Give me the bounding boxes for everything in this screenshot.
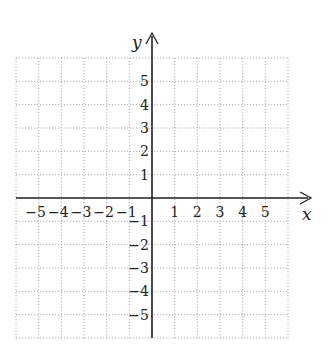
x-tick-label: 5 [261,204,270,220]
x-tick-label: 2 [193,204,202,220]
x-tick-label: −4 [48,204,69,220]
axes: x y [16,32,312,338]
y-axis-label: y [131,32,142,52]
x-tick-label: 1 [170,204,179,220]
y-tick-label: −1 [128,213,149,229]
x-tick-label: −5 [25,204,46,220]
y-tick-label: −5 [128,307,149,323]
y-tick-label: −2 [128,237,149,253]
x-axis-label: x [302,204,312,224]
y-tick-label: −3 [128,260,149,276]
x-tick-label: 4 [238,204,247,220]
coordinate-plane: x y −5−4−3−2−112345 54321−1−2−3−4−5 [0,0,333,359]
y-tick-label: 1 [140,167,149,183]
y-tick-label: 4 [140,97,149,113]
x-tick-label: −2 [93,204,114,220]
x-tick-label: −3 [71,204,92,220]
y-tick-label: 5 [140,73,149,89]
y-tick-label: −4 [128,283,149,299]
y-tick-label: 3 [140,120,149,136]
x-tick-label: 3 [216,204,225,220]
y-tick-label: 2 [140,143,149,159]
